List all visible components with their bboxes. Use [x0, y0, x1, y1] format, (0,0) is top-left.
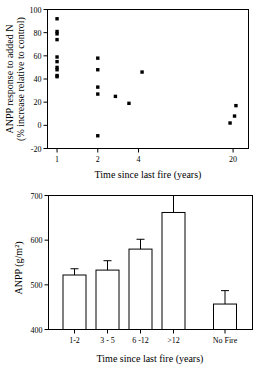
bar-y-axis-label: ANPP (g/m²) — [13, 242, 25, 295]
scatter-y-tick-label: 40 — [34, 75, 42, 84]
bar-y-ticks: 400500600700 — [31, 192, 49, 335]
bar-series — [63, 196, 237, 330]
scatter-y-tick-label: 100 — [30, 6, 42, 15]
bar-category-label: No Fire — [213, 336, 238, 345]
bar-rect — [63, 275, 86, 329]
scatter-y-tick-label: 60 — [34, 52, 42, 61]
scatter-point — [233, 114, 236, 117]
bar-y-tick-label: 600 — [31, 236, 43, 245]
scatter-point — [228, 121, 231, 124]
scatter-y-axis-label: ANPP response to added N (% increase rel… — [4, 17, 27, 141]
scatter-y-tick-label: 20 — [34, 98, 42, 107]
bar-category-label: 3 - 5 — [100, 336, 115, 345]
scatter-point — [96, 85, 99, 88]
bar-chart-svg: ANPP (g/m²) 400500600700 1-23 - 56 -12>1… — [0, 185, 262, 370]
scatter-point — [55, 55, 58, 58]
scatter-y-tick-label: 0 — [38, 121, 42, 130]
scatter-y-axis-label-line1: ANPP response to added N — [4, 24, 15, 133]
bar-y-tick-label: 500 — [31, 281, 43, 290]
bar-x-ticks — [75, 330, 226, 334]
bar-rect — [96, 270, 119, 329]
bar-rect — [129, 249, 152, 329]
scatter-x-tick-label: 20 — [229, 155, 237, 164]
scatter-point — [55, 75, 58, 78]
scatter-point — [234, 104, 237, 107]
scatter-point — [140, 70, 143, 73]
scatter-data-points — [55, 17, 237, 137]
bar-category-label: 6 -12 — [132, 336, 149, 345]
bar-category-labels: 1-23 - 56 -12>12No Fire — [69, 336, 238, 345]
scatter-y-tick-label: -20 — [31, 145, 42, 154]
bar-category-label: >12 — [167, 336, 180, 345]
scatter-x-axis-label: Time since last fire (years) — [95, 169, 202, 181]
bar-x-axis-label: Time since last fire (years) — [97, 353, 204, 365]
scatter-plot-frame — [48, 10, 249, 149]
bar-panel: ANPP (g/m²) 400500600700 1-23 - 56 -12>1… — [0, 185, 262, 370]
scatter-point — [55, 68, 58, 71]
scatter-y-ticks: -20020406080100 — [30, 6, 48, 154]
scatter-x-ticks: 12420 — [55, 149, 237, 164]
figure: ANPP response to added N (% increase rel… — [0, 0, 262, 370]
scatter-point — [96, 92, 99, 95]
scatter-point — [127, 102, 130, 105]
scatter-point — [55, 32, 58, 35]
scatter-x-tick-label: 1 — [55, 155, 59, 164]
bar-y-tick-label: 700 — [31, 192, 43, 201]
scatter-point — [55, 17, 58, 20]
scatter-point — [96, 56, 99, 59]
scatter-point — [55, 60, 58, 63]
scatter-point — [96, 68, 99, 71]
scatter-point — [55, 38, 58, 41]
scatter-y-tick-label: 80 — [34, 29, 42, 38]
scatter-point — [114, 95, 117, 98]
scatter-x-tick-label: 2 — [96, 155, 100, 164]
bar-rect — [214, 304, 237, 329]
bar-rect — [162, 212, 185, 329]
scatter-panel: ANPP response to added N (% increase rel… — [0, 0, 262, 185]
bar-category-label: 1-2 — [69, 336, 80, 345]
scatter-point — [96, 134, 99, 137]
scatter-plot-svg: ANPP response to added N (% increase rel… — [0, 0, 262, 185]
bar-y-tick-label: 400 — [31, 326, 43, 335]
scatter-y-axis-label-line2: (% increase relative to control) — [15, 17, 27, 141]
scatter-x-tick-label: 4 — [137, 155, 141, 164]
